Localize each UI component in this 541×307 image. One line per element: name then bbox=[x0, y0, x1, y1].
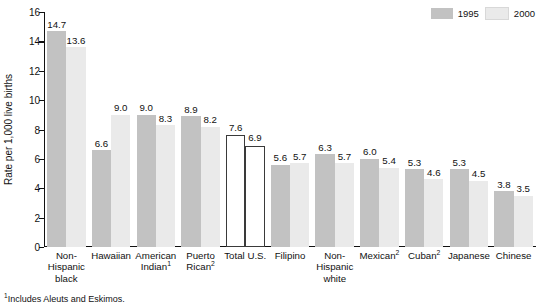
bar-1995: 9.0 bbox=[137, 115, 156, 247]
category-label-line: black bbox=[33, 273, 99, 284]
category-label-line: white bbox=[302, 273, 368, 284]
y-tick-label: 2 bbox=[34, 212, 40, 223]
chart-container: 1995 2000 Rate per 1,000 live births 024… bbox=[0, 0, 541, 307]
bar-1995: 5.3 bbox=[450, 169, 469, 247]
plot-area: 0246810121416 14.713.66.69.09.08.38.98.2… bbox=[44, 12, 536, 247]
y-tick-label: 10 bbox=[29, 95, 40, 106]
y-tick-label: 8 bbox=[34, 124, 40, 135]
category-label-line: Hispanic bbox=[33, 261, 99, 272]
bar-1995: 5.3 bbox=[405, 169, 424, 247]
bar-2000: 6.9 bbox=[245, 146, 264, 247]
bar-2000: 5.4 bbox=[379, 168, 398, 247]
bar-group: 6.05.4 bbox=[360, 12, 399, 247]
chart-footnote: 1Includes Aleuts and Eskimos. bbox=[4, 294, 125, 304]
y-axis-title-text: Rate per 1,000 live births bbox=[4, 74, 15, 185]
bar-value-label: 5.7 bbox=[338, 151, 351, 162]
bar-1995: 5.6 bbox=[271, 165, 290, 247]
bar-2000: 3.5 bbox=[514, 196, 533, 247]
bar-value-label: 4.5 bbox=[472, 168, 485, 179]
bar-2000: 4.6 bbox=[424, 179, 443, 247]
bar-value-label: 6.3 bbox=[318, 142, 331, 153]
bar-value-label: 5.6 bbox=[274, 152, 287, 163]
bar-group: 3.83.5 bbox=[494, 12, 533, 247]
bar-value-label: 6.9 bbox=[248, 132, 261, 143]
bar-value-label: 9.0 bbox=[114, 102, 127, 113]
bar-value-label: 3.5 bbox=[517, 183, 530, 194]
bar-1995: 3.8 bbox=[494, 191, 513, 247]
category-label-line: Rican2 bbox=[168, 261, 234, 272]
bar-group: 9.08.3 bbox=[137, 12, 176, 247]
bar-value-label: 5.4 bbox=[382, 155, 395, 166]
bar-value-label: 5.3 bbox=[408, 157, 421, 168]
bar-group: 6.35.7 bbox=[315, 12, 354, 247]
bar-value-label: 5.3 bbox=[453, 157, 466, 168]
bar-group: 5.34.5 bbox=[450, 12, 489, 247]
y-tick-label: 16 bbox=[29, 7, 40, 18]
bar-1995: 14.7 bbox=[47, 31, 66, 247]
bar-value-label: 6.6 bbox=[95, 138, 108, 149]
category-label-line: Hispanic bbox=[302, 261, 368, 272]
bar-group: 5.65.7 bbox=[271, 12, 310, 247]
category-label: Chinese bbox=[481, 250, 541, 261]
y-axis-title: Rate per 1,000 live births bbox=[3, 12, 15, 247]
bar-value-label: 14.7 bbox=[47, 19, 66, 30]
bar-value-label: 8.3 bbox=[159, 113, 172, 124]
bar-1995: 7.6 bbox=[226, 135, 245, 247]
bar-2000: 5.7 bbox=[335, 163, 354, 247]
y-tick-label: 14 bbox=[29, 36, 40, 47]
bar-group: 7.66.9 bbox=[226, 12, 265, 247]
y-tick-label: 6 bbox=[34, 153, 40, 164]
bar-value-label: 6.0 bbox=[363, 146, 376, 157]
bar-group: 5.34.6 bbox=[405, 12, 444, 247]
bar-2000: 8.3 bbox=[156, 125, 175, 247]
y-tick-label: 12 bbox=[29, 65, 40, 76]
bar-groups: 14.713.66.69.09.08.38.98.27.66.95.65.76.… bbox=[44, 12, 536, 247]
bar-value-label: 5.7 bbox=[293, 151, 306, 162]
x-axis-category-labels: Non-HispanicblackHawaiianAmericanIndian1… bbox=[44, 250, 536, 294]
footnote-text: Includes Aleuts and Eskimos. bbox=[8, 294, 125, 304]
bar-1995: 6.0 bbox=[360, 159, 379, 247]
bar-1995: 6.3 bbox=[315, 154, 334, 247]
bar-value-label: 3.8 bbox=[497, 179, 510, 190]
bar-2000: 13.6 bbox=[66, 47, 85, 247]
bar-value-label: 9.0 bbox=[139, 102, 152, 113]
bar-2000: 9.0 bbox=[111, 115, 130, 247]
bar-value-label: 13.6 bbox=[67, 35, 86, 46]
bar-group: 8.98.2 bbox=[181, 12, 220, 247]
bar-value-label: 7.6 bbox=[229, 122, 242, 133]
bar-2000: 8.2 bbox=[201, 127, 220, 247]
bar-2000: 5.7 bbox=[290, 163, 309, 247]
bar-1995: 8.9 bbox=[181, 116, 200, 247]
bar-value-label: 8.9 bbox=[184, 104, 197, 115]
bar-2000: 4.5 bbox=[469, 181, 488, 247]
bar-value-label: 8.2 bbox=[203, 114, 216, 125]
bar-group: 14.713.6 bbox=[47, 12, 86, 247]
y-tick-label: 4 bbox=[34, 183, 40, 194]
category-label-line: Chinese bbox=[481, 250, 541, 261]
bar-1995: 6.6 bbox=[92, 150, 111, 247]
bar-group: 6.69.0 bbox=[92, 12, 131, 247]
bar-value-label: 4.6 bbox=[427, 167, 440, 178]
